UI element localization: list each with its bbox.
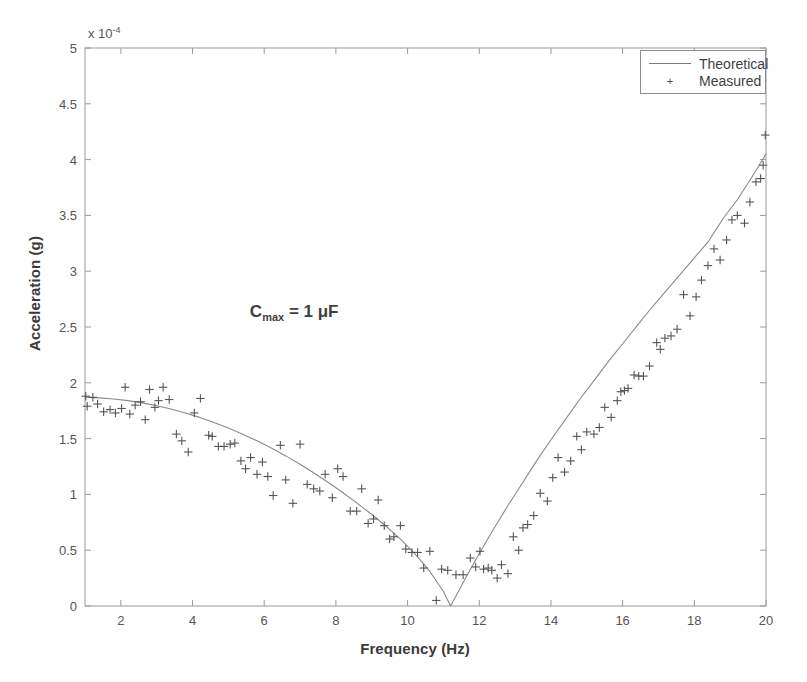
annotation-subscript: max xyxy=(262,311,284,323)
x-tick-label: 20 xyxy=(759,613,773,628)
x-tick-label: 10 xyxy=(400,613,414,628)
x-tick-label: 18 xyxy=(687,613,701,628)
x-axis-title: Frequency (Hz) xyxy=(285,640,545,657)
y-tick-label: 2.5 xyxy=(33,320,77,335)
y-tick-label: 0.5 xyxy=(33,543,77,558)
legend-line-swatch xyxy=(647,57,693,71)
y-axis-title: Acceleration (g) xyxy=(26,194,43,394)
y-tick-label: 5 xyxy=(33,41,77,56)
measured-points xyxy=(82,131,770,605)
y-tick-label: 3 xyxy=(33,264,77,279)
plot-frame xyxy=(85,48,766,606)
x-tick-label: 8 xyxy=(332,613,339,628)
legend-item-theoretical: Theoretical xyxy=(647,55,757,72)
y-tick-label: 1.5 xyxy=(33,431,77,446)
legend-label-theoretical: Theoretical xyxy=(693,56,768,72)
y-tick-label: 4.5 xyxy=(33,96,77,111)
x-tick-label: 12 xyxy=(472,613,486,628)
x-tick-label: 16 xyxy=(615,613,629,628)
y-tick-label: 3.5 xyxy=(33,208,77,223)
chart-legend: Theoretical + Measured xyxy=(640,50,766,94)
y-axis-multiplier-mantissa: x 10 xyxy=(88,26,113,41)
x-tick-label: 6 xyxy=(261,613,268,628)
y-tick-label: 1 xyxy=(33,487,77,502)
y-tick-label: 4 xyxy=(33,152,77,167)
legend-item-measured: + Measured xyxy=(647,72,757,89)
y-axis-multiplier: x 10-4 xyxy=(88,25,121,41)
annotation-value: = 1 μF xyxy=(284,302,338,321)
legend-label-measured: Measured xyxy=(693,73,761,89)
annotation-symbol: C xyxy=(250,302,262,321)
y-tick-label: 2 xyxy=(33,375,77,390)
x-tick-label: 4 xyxy=(189,613,196,628)
figure-container: x 10-4 Acceleration (g) Frequency (Hz) C… xyxy=(0,0,807,682)
legend-marker-swatch: + xyxy=(647,74,693,88)
y-axis-multiplier-exponent: -4 xyxy=(113,25,121,35)
plot-svg xyxy=(0,0,807,682)
x-tick-label: 2 xyxy=(117,613,124,628)
chart-annotation: Cmax = 1 μF xyxy=(250,302,339,323)
y-tick-label: 0 xyxy=(33,599,77,614)
x-tick-label: 14 xyxy=(544,613,558,628)
theoretical-curve xyxy=(85,154,766,606)
